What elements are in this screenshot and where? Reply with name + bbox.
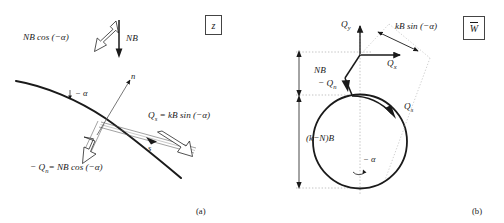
label-axis-n: n — [131, 72, 135, 81]
vector-qs-arc — [352, 96, 396, 119]
panel-b-caption: (b) — [472, 206, 482, 216]
section-band-n — [85, 121, 104, 152]
arrow-qs-hollow — [158, 131, 193, 157]
label-qy-symbol: Q — [341, 19, 348, 29]
figure-two-panel-force-diagram: NB cos (−α) NB − α n s Qs = kB sin (−α) … — [0, 0, 504, 223]
dimension-nb — [296, 50, 301, 97]
arrow-minus-qn-hollow — [83, 137, 97, 164]
label-minus-qn-subscript: n — [333, 83, 336, 90]
label-qs-b-subscript: s — [411, 106, 414, 113]
guide-slant-left — [360, 24, 389, 55]
label-qn-rhs: = NB cos (−α) — [48, 162, 102, 172]
label-nb: NB — [126, 34, 138, 43]
arrow-nb-cos-hollow — [95, 21, 119, 52]
label-qx-symbol: Q — [387, 58, 394, 68]
label-minus-alpha-a: − α — [75, 89, 87, 98]
dimension-kb-sin — [378, 32, 418, 51]
label-nb-dimension: NB — [314, 66, 326, 75]
label-minus-qn-symbol: − Q — [318, 78, 333, 88]
box-label-w-bar: W — [463, 16, 485, 40]
label-qs-b-symbol: Q — [404, 101, 411, 111]
label-k-minus-n-b-dimension: (k−N)B — [306, 134, 334, 143]
label-qy: Qy — [341, 20, 351, 31]
box-label-z-text: z — [212, 20, 216, 31]
label-qn-symbol: − Q — [30, 162, 45, 172]
panel-a-caption: (a) — [196, 206, 206, 216]
label-nb-cos-alpha: NB cos (−α) — [23, 33, 69, 42]
label-minus-qn-b: − Qn — [318, 79, 336, 90]
label-qs-rhs: = kB sin (−α) — [160, 110, 211, 120]
label-minus-alpha-b: − α — [363, 155, 375, 164]
diagram-vector-graphics — [0, 0, 504, 223]
panel-a-graphics — [16, 20, 196, 178]
vector-minus-qn — [342, 55, 361, 95]
label-axis-s: s — [148, 144, 151, 153]
box-label-w-bar-text: W — [470, 23, 478, 34]
label-qs-b: Qs — [404, 102, 413, 113]
label-qy-subscript: y — [348, 24, 351, 31]
guide-slant-right — [385, 58, 430, 180]
label-kb-sin-alpha: kB sin (−α) — [395, 22, 437, 31]
label-qn-equation-a: − Qn= NB cos (−α) — [30, 163, 103, 174]
label-qx: Qx — [387, 59, 397, 70]
label-qs-symbol: Q — [148, 110, 155, 120]
axis-n-arrow — [97, 80, 130, 135]
box-label-z: z — [205, 15, 222, 35]
dimension-k-minus-n-b — [296, 95, 301, 189]
label-qx-subscript: x — [394, 63, 397, 70]
label-qs-equation-a: Qs = kB sin (−α) — [148, 111, 210, 122]
